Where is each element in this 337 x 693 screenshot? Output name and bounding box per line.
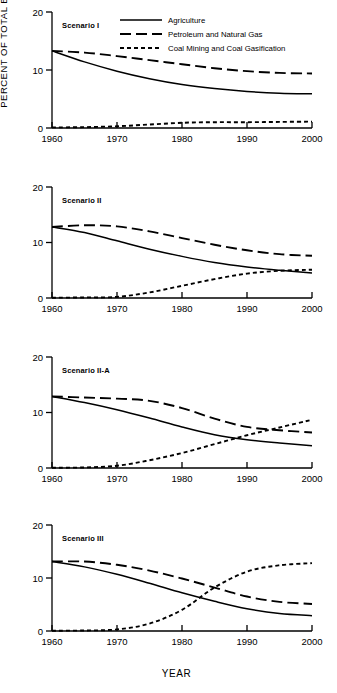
chart-figure: PERCENT OF TOTAL EMPLOYMENT 010201960197… — [0, 0, 337, 693]
x-axis-title: YEAR — [8, 668, 337, 679]
x-tick-label: 1970 — [106, 133, 127, 144]
y-tick-label: 0 — [38, 123, 43, 134]
x-tick-label: 1970 — [106, 636, 127, 647]
y-tick-label: 10 — [32, 407, 43, 418]
x-tick-label: 1960 — [41, 133, 62, 144]
series-line — [52, 225, 312, 256]
y-tick-label: 0 — [38, 463, 43, 474]
panel-scenario-ii: 0102019601970198019902000Scenario II — [0, 175, 337, 345]
y-tick-label: 20 — [32, 352, 43, 363]
y-tick-label: 0 — [38, 626, 43, 637]
x-tick-label: 1990 — [236, 473, 257, 484]
legend-label-agriculture: Agriculture — [168, 16, 205, 25]
panel-scenario-iii: 0102019601970198019902000Scenario III — [0, 513, 337, 668]
y-tick-label: 0 — [38, 293, 43, 304]
x-tick-label: 1960 — [41, 636, 62, 647]
y-tick-label: 10 — [32, 65, 43, 76]
series-line — [52, 227, 312, 273]
x-tick-label: 2000 — [301, 303, 322, 314]
legend-label-coal: Coal Mining and Coal Gasification — [168, 44, 285, 53]
x-tick-label: 1980 — [171, 636, 192, 647]
y-tick-label: 20 — [32, 520, 43, 531]
x-tick-label: 1980 — [171, 133, 192, 144]
x-tick-label: 1960 — [41, 473, 62, 484]
scenario-label: Scenario II — [62, 196, 102, 205]
series-line — [52, 51, 312, 74]
series-line — [52, 563, 312, 631]
scenario-label: Scenario II-A — [62, 366, 110, 375]
panel-scenario-ii-a: 0102019601970198019902000Scenario II-A — [0, 345, 337, 513]
y-tick-label: 20 — [32, 7, 43, 18]
x-tick-label: 1970 — [106, 473, 127, 484]
legend-label-petroleum: Petroleum and Natural Gas — [168, 30, 263, 39]
series-line — [52, 396, 312, 445]
x-tick-label: 2000 — [301, 636, 322, 647]
panel-scenario-i: 0102019601970198019902000Scenario IAgric… — [0, 0, 337, 175]
series-line — [52, 562, 312, 616]
x-tick-label: 2000 — [301, 133, 322, 144]
x-tick-label: 2000 — [301, 473, 322, 484]
scenario-label: Scenario III — [62, 534, 104, 543]
x-tick-label: 1990 — [236, 133, 257, 144]
x-tick-label: 1960 — [41, 303, 62, 314]
y-tick-label: 10 — [32, 573, 43, 584]
x-tick-label: 1980 — [171, 303, 192, 314]
x-tick-label: 1990 — [236, 303, 257, 314]
x-tick-label: 1990 — [236, 636, 257, 647]
scenario-label: Scenario I — [62, 21, 99, 30]
x-tick-label: 1970 — [106, 303, 127, 314]
y-tick-label: 20 — [32, 182, 43, 193]
y-tick-label: 10 — [32, 237, 43, 248]
series-line — [52, 51, 312, 94]
x-tick-label: 1980 — [171, 473, 192, 484]
